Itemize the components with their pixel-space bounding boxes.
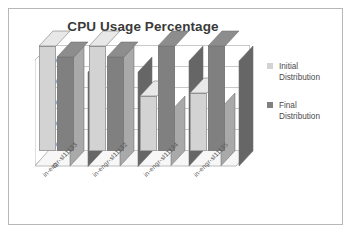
bar	[39, 46, 56, 151]
bar	[208, 46, 225, 151]
legend-label-final-line2: Distribution	[279, 111, 345, 122]
bar-face	[107, 57, 124, 152]
x-axis-labels: in-engr-sl11133in-engr-sl11132in-engr-sl…	[35, 169, 250, 224]
bar	[107, 57, 124, 152]
bar	[190, 93, 207, 151]
legend-label-final-line1: Final	[279, 100, 345, 111]
bar-face	[57, 57, 74, 152]
legend-label-initial-line1: Initial	[279, 61, 345, 72]
legend-swatch-initial	[267, 63, 273, 69]
legend-swatch-final	[267, 102, 273, 108]
bar-face	[190, 93, 207, 151]
legend-label-initial-line2: Distribution	[279, 72, 345, 83]
chart-container: CPU Usage Percentage 020406080100 in-eng…	[8, 8, 343, 225]
bar	[140, 96, 157, 151]
bar-face	[158, 46, 175, 151]
chart-legend: Initial Distribution Final Distribution	[267, 61, 345, 139]
bar-face	[89, 46, 106, 151]
bar	[89, 46, 106, 151]
bar-face	[39, 46, 56, 151]
bar-face	[140, 96, 157, 151]
bar-face	[208, 46, 225, 151]
legend-item-final: Final Distribution	[267, 100, 345, 122]
bar	[158, 46, 175, 151]
bar	[57, 57, 74, 152]
legend-item-initial: Initial Distribution	[267, 61, 345, 83]
